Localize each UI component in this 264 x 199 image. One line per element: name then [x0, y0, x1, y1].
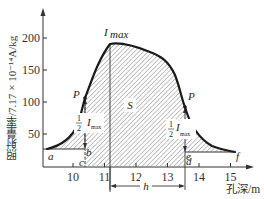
p-right-label: P: [187, 90, 195, 102]
svg-text:2: 2: [169, 130, 173, 139]
y-tick-200: 200: [22, 31, 40, 45]
svg-text:1: 1: [77, 114, 81, 123]
svg-text:max: max: [91, 124, 101, 130]
h-dimension: h: [110, 180, 185, 192]
y-tick-150: 150: [22, 63, 40, 77]
point-a-label: a: [48, 150, 54, 162]
half-imax-left-label: 1 2 I max: [74, 113, 104, 133]
point-e-label: e: [186, 150, 191, 162]
point-c-label: c: [79, 156, 84, 168]
h-label: h: [143, 180, 149, 192]
svg-text:max: max: [180, 131, 190, 137]
x-tick-10: 10: [67, 170, 79, 184]
svg-text:2: 2: [77, 124, 81, 133]
area-s-label: S: [127, 99, 133, 111]
half-imax-right-label: 1 2 I max: [166, 119, 196, 139]
point-p-right: [183, 105, 187, 109]
svg-text:1: 1: [169, 120, 173, 129]
x-tick-13: 13: [162, 170, 174, 184]
y-axis-arrow: [41, 8, 46, 16]
imax-label: I: [103, 26, 109, 38]
x-axis-arrow: [246, 165, 254, 170]
x-tick-14: 14: [193, 170, 205, 184]
y-tick-50: 50: [28, 127, 40, 141]
p-left-label: P: [72, 88, 80, 100]
imax-sub: max: [110, 28, 128, 40]
gamma-log-chart: 200 150 100 50 10 11 12 13 14 15: [0, 0, 264, 199]
x-tick-11: 11: [99, 170, 111, 184]
point-p-left: [83, 96, 87, 100]
point-f-label: f: [236, 150, 241, 162]
x-axis-label: 孔深/m: [226, 180, 260, 196]
y-axis-label: 照射量率/7.17×10⁻¹⁴A/kg: [2, 18, 22, 178]
point-b-label: b: [86, 146, 92, 158]
y-tick-100: 100: [22, 95, 40, 109]
